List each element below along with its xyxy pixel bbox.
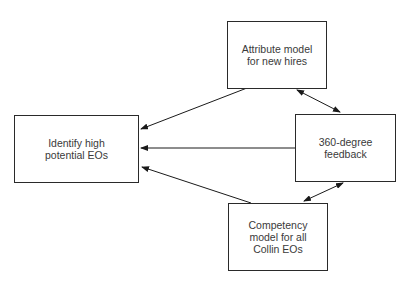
node-feedback-label: 360-degree feedback [319, 136, 373, 160]
node-attribute: Attribute model for new hires [227, 21, 327, 89]
edge-attribute-feedback [297, 90, 340, 112]
node-identify: Identify high potential EOs [14, 115, 139, 183]
edge-attribute-to-identify [141, 88, 247, 129]
node-feedback: 360-degree feedback [295, 114, 396, 182]
node-attribute-label: Attribute model for new hires [242, 43, 313, 67]
edge-competency-feedback [304, 183, 343, 201]
edge-competency-to-identify [142, 167, 251, 203]
node-competency: Competency model for all Collin EOs [228, 203, 328, 271]
node-competency-label: Competency model for all Collin EOs [249, 219, 308, 255]
node-identify-label: Identify high potential EOs [45, 137, 108, 161]
